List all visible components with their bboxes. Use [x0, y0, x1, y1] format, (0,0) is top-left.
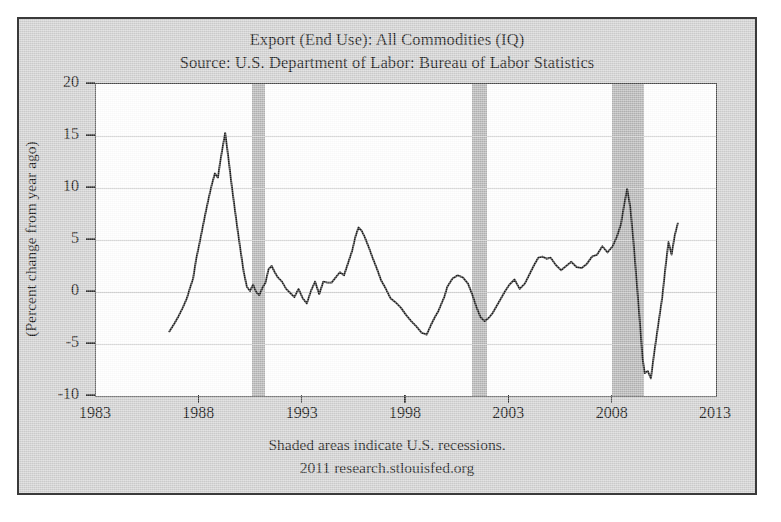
y-axis-title: (Percent change from year ago) [22, 86, 40, 392]
y-axis-tick-label: 0 [71, 282, 79, 298]
x-axis-tick [198, 395, 200, 403]
x-axis-tick-label: 1993 [272, 404, 332, 422]
y-axis-tick-label: 5 [71, 230, 79, 246]
y-axis-tick-label: -10 [58, 386, 79, 402]
x-axis-tick-label: 2013 [685, 404, 745, 422]
chart-title: Export (End Use): All Commodities (IQ) [19, 28, 755, 51]
x-axis-tick-label: 2003 [478, 404, 538, 422]
y-axis-tick-label: 10 [63, 178, 79, 194]
x-axis-tick [301, 395, 303, 403]
x-axis-tick-label: 1988 [168, 404, 228, 422]
chart-source-subtitle: Source: U.S. Department of Labor: Bureau… [19, 51, 755, 74]
recession-note: Shaded areas indicate U.S. recessions. [19, 433, 755, 456]
y-axis-tick [86, 290, 95, 292]
x-axis-tick-label: 1998 [375, 404, 435, 422]
y-axis-tick-label: 20 [63, 74, 79, 90]
x-axis-tick-label: 1983 [65, 404, 125, 422]
y-axis-tick [86, 394, 95, 396]
x-axis-tick-label: 2008 [582, 404, 642, 422]
y-axis-tick [86, 82, 95, 84]
y-axis-tick-label: -5 [66, 334, 79, 350]
chart-title-block: Export (End Use): All Commodities (IQ) S… [19, 28, 755, 74]
x-axis-tick [508, 395, 510, 403]
y-axis-tick [86, 134, 95, 136]
plot-area [95, 83, 717, 397]
y-axis-tick [86, 342, 95, 344]
source-attribution: 2011 research.stlouisfed.org [19, 456, 755, 479]
y-axis-tick [86, 186, 95, 188]
x-axis-tick [611, 395, 613, 403]
chart-footer-block: Shaded areas indicate U.S. recessions. 2… [19, 433, 755, 479]
data-series-line [96, 84, 716, 396]
x-axis-tick [404, 395, 406, 403]
y-axis-tick-label: 15 [63, 126, 79, 142]
y-axis-tick [86, 238, 95, 240]
